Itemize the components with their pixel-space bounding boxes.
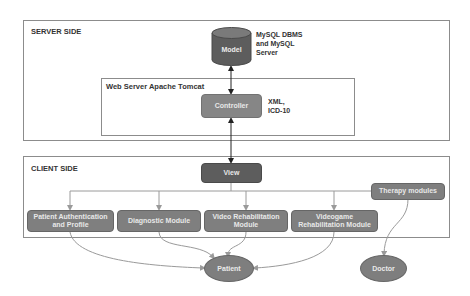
- controller-note-line: ICD-10: [268, 106, 290, 115]
- model-note: MySQL DBMS and MySQL Server: [256, 30, 303, 57]
- view-node: View: [201, 163, 262, 183]
- patient-auth-module: Patient Authentication and Profile: [27, 210, 114, 232]
- videogame-rehabilitation-module: Videogame Rehabilitation Module: [291, 210, 378, 232]
- patient-actor: Patient: [204, 255, 254, 282]
- module-label-line: Video Rehabilitation: [212, 213, 279, 221]
- module-label-line: Diagnostic Module: [128, 217, 190, 225]
- module-label-line: Patient Authentication: [33, 213, 107, 221]
- controller-note: XML, ICD-10: [268, 97, 290, 115]
- model-note-line: MySQL DBMS: [256, 30, 303, 39]
- module-label-line: and Profile: [52, 221, 88, 229]
- doctor-actor: Doctor: [360, 255, 407, 282]
- module-label-line: Rehabilitation Module: [298, 221, 371, 229]
- model-node: Model: [211, 36, 252, 62]
- controller-note-line: XML,: [268, 97, 290, 106]
- diagnostic-module: Diagnostic Module: [117, 210, 201, 232]
- module-label-line: Module: [234, 221, 259, 229]
- module-label-line: Videogame: [316, 213, 353, 221]
- therapy-modules-node: Therapy modules: [371, 183, 445, 200]
- video-rehabilitation-module: Video Rehabilitation Module: [204, 210, 288, 232]
- controller-node: Controller: [201, 94, 262, 118]
- model-note-line: and MySQL: [256, 39, 303, 48]
- model-note-line: Server: [256, 48, 303, 57]
